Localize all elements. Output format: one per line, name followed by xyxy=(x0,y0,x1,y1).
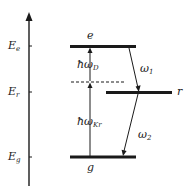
photon-kr-label: ħωKr xyxy=(77,116,102,129)
omega2-arrowhead-icon xyxy=(122,150,127,156)
omega1-label: ω1 xyxy=(140,63,153,76)
omega2-arrow xyxy=(124,94,138,151)
omega1-arrow xyxy=(129,48,138,88)
omega1-arrowhead-icon xyxy=(136,85,141,92)
photon-d-arrowhead-icon xyxy=(88,48,93,54)
photon-kr-arrowhead-icon xyxy=(88,83,93,89)
axis-label-Eg: Eg xyxy=(8,151,21,164)
axis-arrow-icon xyxy=(26,12,33,21)
energy-axis xyxy=(26,12,33,186)
level-e-label: e xyxy=(87,30,94,41)
axis-label-Ee: Ee xyxy=(8,40,20,53)
energy-level-diagram: Ee Er Eg e r g ħωD ħωKr ω1 ω2 xyxy=(0,0,191,196)
diagram-canvas xyxy=(0,0,191,196)
axis-label-Er: Er xyxy=(8,86,19,99)
level-r-label: r xyxy=(177,86,182,97)
omega2-label: ω2 xyxy=(138,129,151,142)
photon-d-label: ħωD xyxy=(77,59,99,72)
level-g-label: g xyxy=(87,162,94,173)
